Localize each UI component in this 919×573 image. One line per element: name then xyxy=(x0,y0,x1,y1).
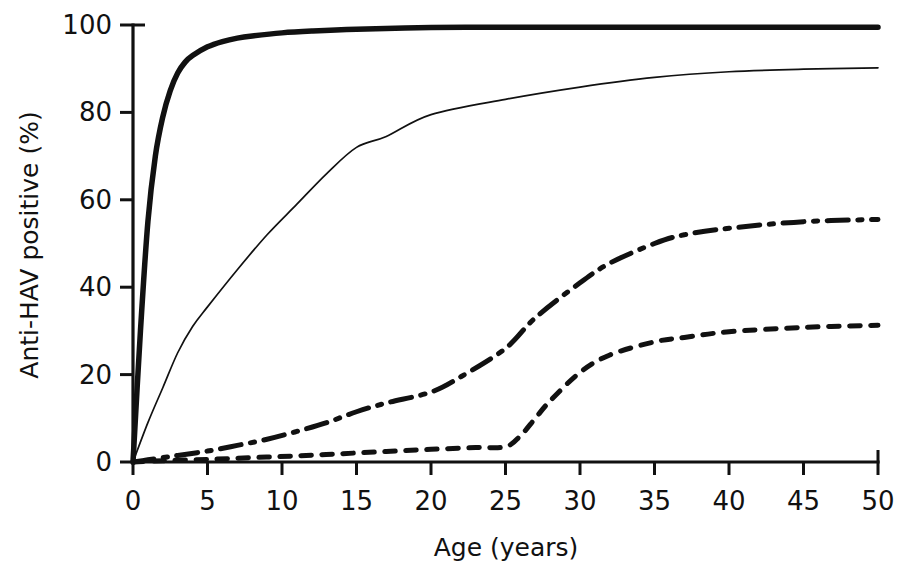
x-tick-label: 35 xyxy=(638,486,671,516)
x-tick-label: 0 xyxy=(125,486,142,516)
x-tick-label: 45 xyxy=(787,486,820,516)
y-tick-label: 60 xyxy=(79,185,112,215)
x-tick-label: 5 xyxy=(199,486,216,516)
series-dotted-curve xyxy=(133,325,878,462)
x-tick-label: 50 xyxy=(861,486,894,516)
y-tick-label: 100 xyxy=(62,10,112,40)
series-layer xyxy=(133,27,878,462)
series-thick-solid-curve xyxy=(133,27,878,462)
series-thin-solid-curve xyxy=(133,68,878,462)
x-tick-label: 20 xyxy=(414,486,447,516)
x-tick-label: 40 xyxy=(712,486,745,516)
y-axis-title: Anti-HAV positive (%) xyxy=(15,111,44,378)
series-dash-dot-curve xyxy=(133,219,878,462)
x-axis-title: Age (years) xyxy=(434,533,579,562)
y-tick-label: 20 xyxy=(79,360,112,390)
x-tick-label: 30 xyxy=(563,486,596,516)
x-tick-label: 15 xyxy=(340,486,373,516)
x-tick-label: 25 xyxy=(489,486,522,516)
chart-figure: 02040608010005101520253035404550 Age (ye… xyxy=(0,0,919,573)
y-tick-label: 40 xyxy=(79,272,112,302)
y-tick-label: 80 xyxy=(79,97,112,127)
y-tick-label: 0 xyxy=(95,447,112,477)
axis-layer xyxy=(120,25,878,475)
x-tick-label: 10 xyxy=(265,486,298,516)
tick-label-layer: 02040608010005101520253035404550 xyxy=(62,10,894,516)
axis-spines xyxy=(133,25,878,462)
chart-canvas: 02040608010005101520253035404550 Age (ye… xyxy=(0,0,919,573)
